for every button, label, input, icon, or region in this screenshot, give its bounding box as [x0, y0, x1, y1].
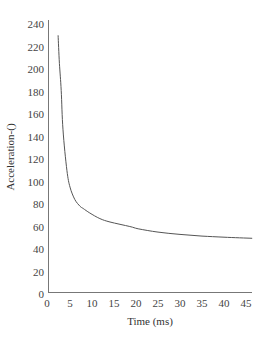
- y-tick-label: 40: [33, 243, 45, 255]
- x-tick-label: 15: [109, 297, 121, 309]
- y-tick-label: 220: [28, 41, 45, 53]
- y-tick-label: 200: [28, 63, 45, 75]
- x-tick-label: 20: [131, 297, 143, 309]
- x-tick-label: 5: [67, 297, 73, 309]
- x-tick-label: 45: [241, 297, 253, 309]
- y-tick-label: 160: [28, 108, 45, 120]
- x-tick-label: 40: [219, 297, 231, 309]
- x-tick-label: 0: [44, 297, 50, 309]
- y-axis-ticks: 020406080100120140160180200220240: [28, 18, 45, 300]
- x-axis-ticks: 051015202530354045: [44, 297, 252, 309]
- y-tick-label: 80: [33, 198, 45, 210]
- y-axis-title: Acceleration-(): [4, 123, 17, 191]
- y-tick-label: 120: [28, 153, 45, 165]
- acceleration-time-chart: 020406080100120140160180200220240 051015…: [0, 0, 264, 341]
- acceleration-curve: [58, 35, 252, 238]
- x-tick-label: 10: [87, 297, 99, 309]
- y-tick-label: 20: [33, 266, 45, 278]
- x-axis-title: Time (ms): [127, 315, 173, 328]
- y-tick-label: 100: [28, 176, 45, 188]
- y-tick-label: 240: [28, 18, 45, 30]
- x-tick-label: 35: [197, 297, 209, 309]
- x-tick-label: 30: [175, 297, 187, 309]
- y-tick-label: 140: [28, 131, 45, 143]
- y-tick-label: 60: [33, 221, 45, 233]
- x-tick-label: 25: [153, 297, 165, 309]
- y-tick-label: 180: [28, 86, 45, 98]
